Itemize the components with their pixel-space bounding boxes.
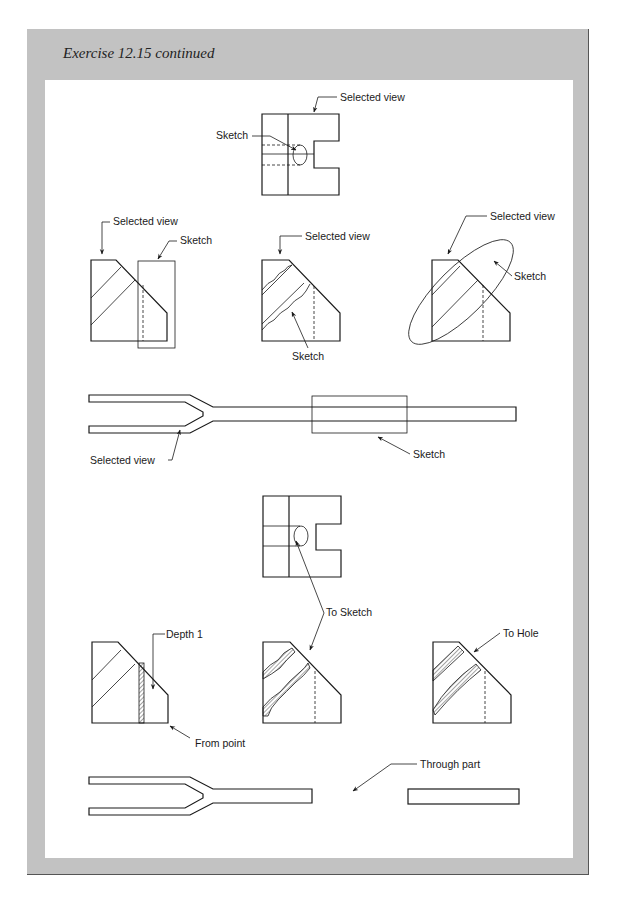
fork-result-view: Through part — [89, 758, 519, 815]
irregular-sketch-view: Selected view Sketch — [262, 230, 370, 362]
label-selected-view: Selected view — [305, 230, 370, 242]
label-sketch: Sketch — [514, 270, 546, 282]
label-sketch: Sketch — [292, 350, 324, 362]
label-sketch: Sketch — [216, 129, 248, 141]
depth-result-view: Depth 1 From point — [92, 628, 245, 749]
fork-selected-view: Selected view Sketch — [89, 395, 516, 466]
label-through-part: Through part — [420, 758, 480, 770]
to-sketch-result-view — [263, 642, 341, 723]
label-to-sketch: To Sketch — [326, 606, 372, 618]
technical-drawing: Selected view Sketch Selected view Sketc… — [0, 0, 618, 905]
ellipse-sketch-view: Selected view Sketch — [395, 210, 556, 358]
label-to-hole: To Hole — [503, 627, 539, 639]
label-sketch: Sketch — [413, 448, 445, 460]
rectangle-sketch-view: Selected view Sketch — [91, 215, 212, 348]
label-selected-view: Selected view — [113, 215, 178, 227]
top-block-view: Selected view Sketch — [216, 91, 405, 195]
label-depth: Depth 1 — [166, 628, 203, 640]
label-sketch: Sketch — [180, 234, 212, 246]
label-selected-view: Selected view — [490, 210, 555, 222]
result-block-view: To Sketch — [263, 496, 372, 650]
label-selected-view: Selected view — [340, 91, 405, 103]
label-selected-view: Selected view — [90, 454, 155, 466]
label-from-point: From point — [195, 737, 245, 749]
to-hole-result-view: To Hole — [433, 627, 539, 723]
